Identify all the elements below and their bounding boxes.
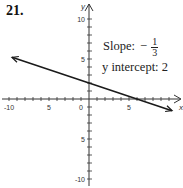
x-tick-label: 5: [127, 104, 131, 111]
slope-sign: −: [140, 39, 147, 53]
coordinate-plane: yx-105051055-10: [0, 0, 183, 188]
y-tick-label: -10: [75, 176, 85, 183]
tick-labels: yx-105051055-10: [4, 2, 183, 183]
slope-label: Slope:: [103, 39, 135, 53]
x-tick-label: -10: [4, 104, 14, 111]
y-tick-label: 10: [77, 16, 85, 23]
x-tick-label: 5: [47, 104, 51, 111]
slope-annotation: Slope: − 1 3: [103, 37, 158, 58]
y-tick-label: 5: [81, 56, 85, 63]
y-tick-label: 5: [81, 136, 85, 143]
x-tick-label: 0: [79, 104, 83, 111]
y-axis-label: y: [80, 2, 86, 11]
graph-figure: 21. yx-105051055-10 Slope: − 1 3 y inter…: [0, 0, 183, 188]
intercept-annotation: y intercept: 2: [102, 60, 168, 75]
x-axis-label: x: [178, 103, 183, 112]
axes: [2, 4, 181, 186]
slope-fraction: 1 3: [151, 37, 158, 58]
slope-denominator: 3: [151, 48, 158, 58]
